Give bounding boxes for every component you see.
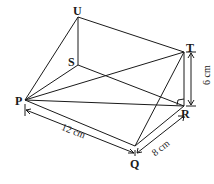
prism-diagram: U T S P R Q 12 cm 8 cm 6 cm [0, 0, 214, 184]
edge-UT [78, 17, 184, 52]
prism-edges [25, 17, 184, 146]
edge-SR [78, 65, 184, 106]
vertex-label-Q: Q [130, 157, 139, 171]
dim-label-RT: 6 cm [201, 65, 212, 85]
edge-PT [25, 52, 184, 100]
edge-PR [25, 100, 184, 106]
edge-TQ [135, 52, 184, 146]
vertex-label-U: U [73, 4, 82, 18]
vertex-label-R: R [181, 107, 190, 121]
edge-QR [135, 106, 184, 146]
vertex-label-P: P [15, 94, 22, 108]
dimension-lines [25, 52, 196, 156]
edge-SP [25, 65, 78, 100]
vertex-label-T: T [186, 41, 194, 55]
vertex-label-S: S [68, 55, 75, 69]
